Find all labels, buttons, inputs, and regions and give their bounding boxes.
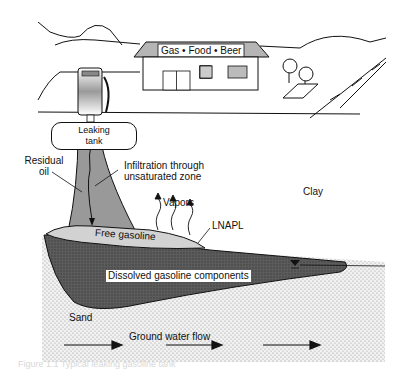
- vapors-label: Vapors: [163, 197, 194, 209]
- residual-oil-label-line2: oil: [14, 166, 74, 178]
- trees: [283, 59, 318, 98]
- ground-water-flow-label: Ground water flow: [129, 331, 210, 343]
- sand-label: Sand: [69, 312, 92, 324]
- clay-label: Clay: [303, 186, 323, 198]
- figure-caption: Figure 1.1 Typical leaking gasoline tank: [18, 359, 175, 369]
- leaking-tank-label-line2: tank: [51, 135, 137, 147]
- road: [310, 58, 386, 118]
- gas-pump: [78, 68, 109, 122]
- lnapl-label: LNAPL: [212, 220, 244, 232]
- infiltration-label-line2: unsaturated zone: [124, 171, 201, 183]
- dissolved-components-label: Dissolved gasoline components: [106, 270, 251, 282]
- store-sign: Gas • Food • Beer: [161, 45, 241, 57]
- residual-oil-column: [68, 136, 136, 232]
